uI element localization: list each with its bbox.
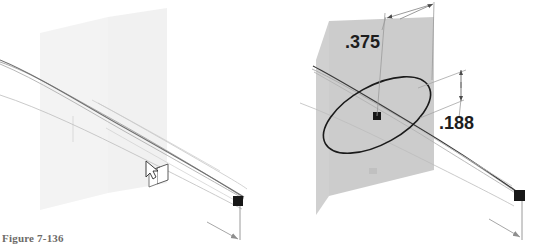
reference-plane-left — [316, 21, 329, 215]
dim-line-right-arrow — [400, 4, 433, 19]
reference-plane-shade — [40, 17, 108, 210]
plane-notch — [369, 168, 377, 174]
endpoint-marker[interactable] — [514, 190, 525, 201]
figure-caption: Figure 7-136 — [2, 233, 64, 246]
left-panel — [0, 8, 247, 240]
reference-plane — [108, 8, 167, 193]
cube-icon — [157, 164, 168, 184]
right-panel: .375 .188 — [300, 2, 525, 240]
figure-root: .375 .188 Figure 7-136 — [0, 0, 544, 246]
dimension-188-label: .188 — [439, 113, 474, 133]
figure-canvas: .375 .188 — [0, 0, 544, 246]
endpoint-leader-arrow — [489, 219, 520, 237]
dimension-375-label: .375 — [345, 32, 380, 52]
endpoint-leader-arrow — [207, 222, 238, 239]
dim-line-left-arrow — [387, 5, 430, 18]
endpoint-marker[interactable] — [233, 196, 243, 206]
